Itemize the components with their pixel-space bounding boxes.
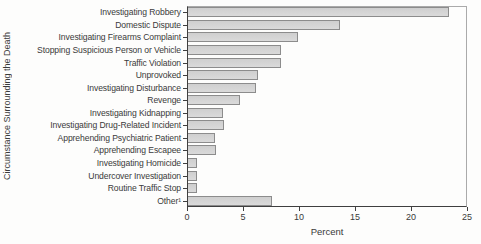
bar-track <box>187 31 467 44</box>
bar-row: Routine Traffic Stop <box>0 182 467 195</box>
x-axis-tick <box>411 207 412 211</box>
x-axis-tick <box>467 207 468 211</box>
bar <box>187 171 197 181</box>
x-axis-ticks <box>187 207 467 211</box>
category-label: Apprehending Escapee <box>0 145 187 155</box>
bar-row: Investigating Drug-Related Incident <box>0 119 467 132</box>
bar <box>187 83 256 93</box>
bar <box>187 120 224 130</box>
bar-track <box>187 94 467 107</box>
category-label: Unprovoked <box>0 70 187 80</box>
bar <box>187 145 216 155</box>
bar-row: Investigating Firearms Complaint <box>0 31 467 44</box>
category-label: Revenge <box>0 95 187 105</box>
bar-chart: Circumstance Surrounding the Death Inves… <box>0 0 481 244</box>
bar-track <box>187 144 467 157</box>
x-axis-tick-label: 10 <box>294 212 304 222</box>
bar-track <box>187 169 467 182</box>
bar-row: Apprehending Psychiatric Patient <box>0 132 467 145</box>
bar-row: Investigating Robbery <box>0 6 467 19</box>
x-axis-tick <box>299 207 300 211</box>
category-label: Investigating Firearms Complaint <box>0 32 187 42</box>
x-axis-tick-label: 25 <box>462 212 472 222</box>
x-axis-tick-label: 15 <box>350 212 360 222</box>
x-axis-title: Percent <box>187 226 467 237</box>
category-label: Investigating Kidnapping <box>0 108 187 118</box>
bar <box>187 20 340 30</box>
bar-row: Stopping Suspicious Person or Vehicle <box>0 44 467 57</box>
bar-rows: Investigating RobberyDomestic DisputeInv… <box>0 6 467 207</box>
bar <box>187 58 281 68</box>
bar <box>187 70 258 80</box>
bar-row: Investigating Homicide <box>0 157 467 170</box>
category-label: Undercover Investigation <box>0 171 187 181</box>
bar-track <box>187 107 467 120</box>
category-label: Investigating Disturbance <box>0 83 187 93</box>
bar <box>187 158 197 168</box>
x-axis-tick <box>243 207 244 211</box>
bar-track <box>187 56 467 69</box>
bar-row: Investigating Kidnapping <box>0 107 467 120</box>
x-axis-tick-label: 20 <box>406 212 416 222</box>
category-label: Apprehending Psychiatric Patient <box>0 133 187 143</box>
bar <box>187 95 240 105</box>
category-label: Investigating Drug-Related Incident <box>0 120 187 130</box>
bar <box>187 7 449 17</box>
bar-track <box>187 157 467 170</box>
bar <box>187 32 298 42</box>
category-label: Stopping Suspicious Person or Vehicle <box>0 45 187 55</box>
bar-row: Unprovoked <box>0 69 467 82</box>
bar <box>187 183 197 193</box>
category-label: Traffic Violation <box>0 58 187 68</box>
bar-row: Undercover Investigation <box>0 169 467 182</box>
category-label: Investigating Homicide <box>0 158 187 168</box>
bar-track <box>187 81 467 94</box>
bar-track <box>187 6 467 19</box>
bar <box>187 108 223 118</box>
bar-track <box>187 44 467 57</box>
bar-track <box>187 69 467 82</box>
bar-row: Other¹ <box>0 194 467 207</box>
category-label: Investigating Robbery <box>0 7 187 17</box>
bar-row: Investigating Disturbance <box>0 81 467 94</box>
bar-row: Traffic Violation <box>0 56 467 69</box>
bar-row: Apprehending Escapee <box>0 144 467 157</box>
bar-track <box>187 182 467 195</box>
bar-row: Revenge <box>0 94 467 107</box>
x-axis-tick-labels: 0510152025 <box>187 212 467 222</box>
x-axis-tick-label: 0 <box>184 212 189 222</box>
category-label: Domestic Dispute <box>0 20 187 30</box>
x-axis-tick <box>187 207 188 211</box>
bar-track <box>187 132 467 145</box>
category-label: Routine Traffic Stop <box>0 183 187 193</box>
bar-track <box>187 119 467 132</box>
bar <box>187 133 215 143</box>
x-axis-tick-label: 5 <box>240 212 245 222</box>
bar-track <box>187 19 467 32</box>
bar-track <box>187 194 467 207</box>
bar <box>187 196 272 206</box>
category-label: Other¹ <box>0 196 187 206</box>
x-axis-tick <box>355 207 356 211</box>
bar-row: Domestic Dispute <box>0 19 467 32</box>
bar <box>187 45 281 55</box>
